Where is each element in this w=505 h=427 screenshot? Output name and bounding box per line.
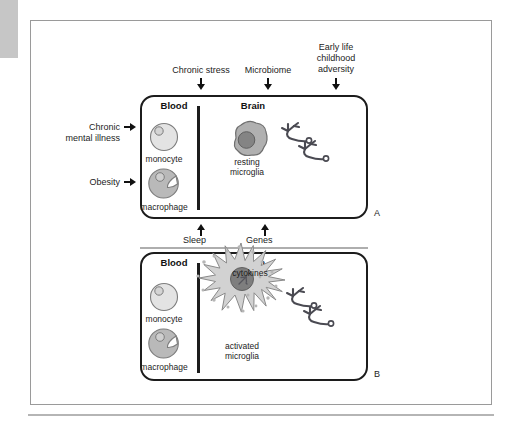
caption-activated-microglia-line2: microglia xyxy=(207,351,277,361)
caption-macrophage-a: macrophage xyxy=(131,202,197,212)
panel-b-letter: B xyxy=(374,369,380,379)
early-life-down-arrow-icon xyxy=(332,84,340,90)
side-label-chronic-mental-illness-line2: mental illness xyxy=(40,133,120,144)
page-margin-tab xyxy=(0,0,18,58)
driver-label-early-life-line2: childhood xyxy=(296,53,376,64)
caption-resting-microglia-line1: resting xyxy=(218,157,276,167)
driver-label-microbiome: Microbiome xyxy=(233,65,303,76)
chronic-mental-illness-right-arrow-icon xyxy=(130,123,136,131)
caption-activated-microglia-line1: activated xyxy=(207,341,277,351)
caption-monocyte-a: monocyte xyxy=(136,154,192,164)
panel-a-letter: A xyxy=(374,208,380,218)
panel-a-brain-heading: Brain xyxy=(228,100,278,111)
figure-root: Chronic stress Microbiome Early life chi… xyxy=(0,0,505,427)
panel-b-blood-heading: Blood xyxy=(152,257,196,268)
caption-monocyte-b: monocyte xyxy=(136,314,192,324)
blood-brain-barrier-divider-a xyxy=(197,106,200,210)
panel-a-blood-heading: Blood xyxy=(152,100,196,111)
driver-label-early-life-line3: adversity xyxy=(296,64,376,75)
footer-divider-rule xyxy=(28,414,494,416)
driver-label-chronic-stress: Chronic stress xyxy=(163,65,239,76)
feedback-separator-rule xyxy=(140,247,368,249)
sleep-up-arrow-icon xyxy=(197,224,205,230)
caption-resting-microglia-line2: microglia xyxy=(218,167,276,177)
side-label-chronic-mental-illness-line1: Chronic xyxy=(40,122,120,133)
side-label-obesity: Obesity xyxy=(40,177,120,188)
caption-cytokines-b: cytokines xyxy=(219,268,281,278)
panel-b-brain-heading: Brain xyxy=(228,257,278,268)
feedback-label-genes: Genes xyxy=(246,235,273,245)
chronic-stress-down-arrow-icon xyxy=(197,84,205,90)
driver-label-early-life-line1: Early life xyxy=(296,42,376,53)
feedback-label-sleep: Sleep xyxy=(183,235,206,245)
microbiome-down-arrow-icon xyxy=(264,84,272,90)
caption-macrophage-b: macrophage xyxy=(131,362,197,372)
genes-up-arrow-icon xyxy=(261,224,269,230)
blood-brain-barrier-divider-b xyxy=(197,263,200,373)
obesity-right-arrow-icon xyxy=(130,178,136,186)
